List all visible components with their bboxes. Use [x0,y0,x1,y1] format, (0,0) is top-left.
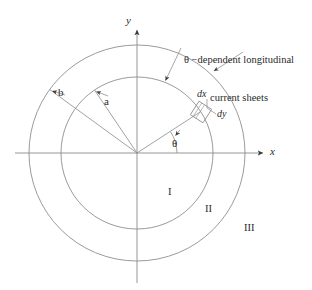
caption-line-1: θ −dependent longitudinal [173,54,305,67]
caption-line-2: current sheets [173,92,305,105]
radius-line-b [50,90,137,154]
radius-line-a [95,90,138,153]
theta-label: θ [172,137,177,149]
radius-b-label: b [58,86,64,98]
theta-arrow [176,130,181,136]
caption-block: θ −dependent longitudinal current sheets [173,28,305,130]
radius-a-label: a [104,95,109,107]
figure-container: y x b a θ dx dy I II III θ −dependent lo… [0,0,312,290]
radius-label-arrows-group [53,91,181,136]
region-label-iii: III [244,222,255,234]
region-label-ii: II [205,203,212,215]
y-axis-label: y [126,14,131,26]
x-axis-label: x [270,145,275,157]
region-label-i: I [168,186,172,198]
